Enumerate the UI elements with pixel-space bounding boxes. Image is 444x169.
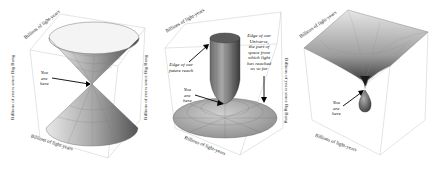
you-are-here-annotation: You are here bbox=[332, 100, 341, 117]
light-cone-surface bbox=[0, 0, 150, 169]
panel-expanding-universe: Billions of light-years Billions of year… bbox=[145, 0, 295, 169]
you-are-here-annotation: You are here bbox=[183, 87, 192, 104]
edge-of-universe-annotation: Edge of our Universe, the part of space … bbox=[247, 33, 271, 72]
z-axis-label: Billions of years since Big Bang bbox=[143, 55, 148, 120]
expanding-universe-surface bbox=[145, 0, 295, 169]
z-axis-label: Billions of years since Big Bang bbox=[10, 55, 15, 120]
z-axis-label: Billions of years since Big Bang bbox=[284, 58, 289, 123]
panel-accelerating-universe: Billions of light-years Billions of year… bbox=[290, 0, 444, 169]
panel-light-cone: Billions of light-years Billions of year… bbox=[0, 0, 150, 169]
edge-of-future-reach-annotation: Edge of our future reach bbox=[169, 62, 193, 73]
you-are-here-annotation: You are here bbox=[40, 70, 49, 87]
